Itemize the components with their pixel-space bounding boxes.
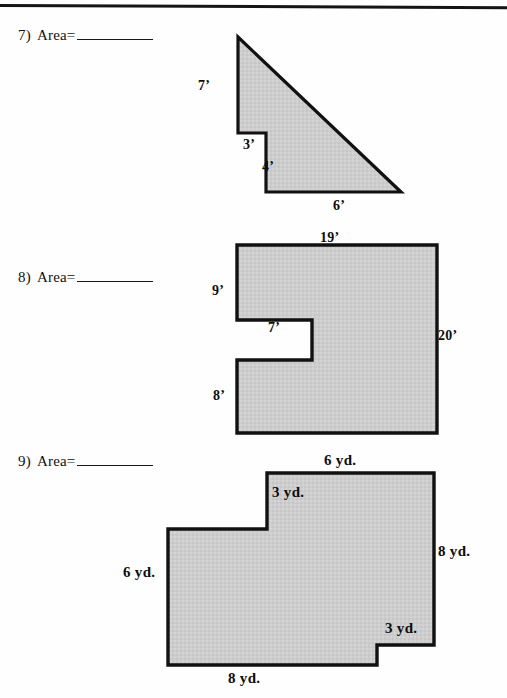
dim-8ft: 8’ <box>213 388 225 404</box>
dim-3ft: 3’ <box>243 137 255 153</box>
problem-9-area-label: Area= <box>37 453 76 469</box>
problem-7-area-label: Area= <box>37 27 76 43</box>
problem-7-answer-blank[interactable] <box>77 26 153 40</box>
dim-3yd-bottom: 3 yd. <box>385 620 417 637</box>
problem-8-figure <box>190 226 455 451</box>
problem-8-prompt: 8)Area= <box>18 268 153 286</box>
header-divider-rule <box>0 4 507 9</box>
dim-9ft: 9’ <box>212 283 224 299</box>
problem-8-answer-blank[interactable] <box>77 268 153 282</box>
dim-7ft: 7’ <box>198 78 210 94</box>
dim-6yd-left: 6 yd. <box>123 564 155 581</box>
dim-8yd-bottom: 8 yd. <box>228 670 260 687</box>
problem-8-number: 8) <box>18 269 31 285</box>
problem-7-prompt: 7)Area= <box>18 26 153 44</box>
dim-20ft: 20’ <box>438 328 458 344</box>
worksheet-page: 7)Area= 7’ <box>0 0 507 698</box>
dim-6ft: 6’ <box>333 198 345 214</box>
dim-6yd-top: 6 yd. <box>324 452 356 469</box>
dim-8yd-right: 8 yd. <box>438 543 470 560</box>
dim-19ft: 19’ <box>320 230 340 246</box>
problem-7-figure <box>190 26 420 211</box>
problem-9-number: 9) <box>18 453 31 469</box>
problem-8-area-label: Area= <box>37 269 76 285</box>
dim-3yd-top: 3 yd. <box>272 484 304 501</box>
problem-7-number: 7) <box>18 27 31 43</box>
shape-8-outline <box>237 245 437 433</box>
dim-4ft: 4’ <box>262 159 274 175</box>
dim-7ft-notch: 7’ <box>268 320 280 336</box>
